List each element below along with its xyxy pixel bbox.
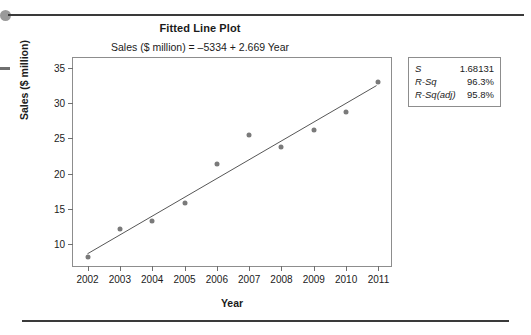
x-axis-tick-label: 2009 xyxy=(303,274,325,285)
bottom-horizontal-rule xyxy=(22,320,509,322)
stat-label-rsq: R-Sq xyxy=(415,75,437,88)
stat-value-rsq-adj: 95.8% xyxy=(467,88,494,101)
y-axis-tick xyxy=(68,68,73,69)
x-axis-tick-label: 2003 xyxy=(109,274,131,285)
x-axis-tick xyxy=(281,266,282,271)
x-axis-tick-label: 2007 xyxy=(238,274,260,285)
top-horizontal-rule xyxy=(8,14,524,16)
data-point xyxy=(311,127,316,132)
y-axis-tick xyxy=(68,174,73,175)
x-axis-tick xyxy=(249,266,250,271)
stat-row-rsq-adj: R-Sq(adj) 95.8% xyxy=(415,88,494,101)
data-point xyxy=(182,201,187,206)
data-point xyxy=(247,132,252,137)
y-axis-tick xyxy=(68,103,73,104)
data-point xyxy=(344,109,349,114)
margin-dash-icon xyxy=(0,67,10,70)
y-axis-tick-label: 20 xyxy=(54,168,65,179)
y-axis-tick xyxy=(68,244,73,245)
data-point xyxy=(85,255,90,260)
statistics-box: S 1.68131 R-Sq 96.3% R-Sq(adj) 95.8% xyxy=(408,57,501,107)
x-axis-tick xyxy=(346,266,347,271)
stat-row-rsq: R-Sq 96.3% xyxy=(415,75,494,88)
x-axis-title: Year xyxy=(72,297,392,309)
y-axis-tick xyxy=(68,209,73,210)
fitted-regression-line xyxy=(73,58,391,267)
data-point xyxy=(150,219,155,224)
x-axis-tick-label: 2002 xyxy=(76,274,98,285)
chart-subtitle-equation: Sales ($ million) = –5334 + 2.669 Year xyxy=(0,41,400,53)
stat-row-s: S 1.68131 xyxy=(415,62,494,75)
y-axis-tick-label: 35 xyxy=(54,62,65,73)
stat-value-s: 1.68131 xyxy=(460,62,494,75)
stat-label-s: S xyxy=(415,62,421,75)
y-axis-tick-label: 30 xyxy=(54,98,65,109)
y-axis-tick-label: 10 xyxy=(54,239,65,250)
figure-page: Fitted Line Plot Sales ($ million) = –53… xyxy=(0,0,531,335)
x-axis-tick xyxy=(120,266,121,271)
y-axis-tick-label: 25 xyxy=(54,133,65,144)
x-axis-tick-label: 2010 xyxy=(335,274,357,285)
x-axis-tick xyxy=(185,266,186,271)
x-axis-tick-label: 2006 xyxy=(206,274,228,285)
x-axis-tick xyxy=(217,266,218,271)
x-axis-tick-label: 2011 xyxy=(368,274,390,285)
plot-area: 1015202530352002200320042005200620072008… xyxy=(72,57,392,267)
chart-title: Fitted Line Plot xyxy=(0,22,400,34)
x-axis-tick-label: 2008 xyxy=(270,274,292,285)
data-point xyxy=(376,79,381,84)
x-axis-tick xyxy=(88,266,89,271)
stat-value-rsq: 96.3% xyxy=(467,75,494,88)
data-point xyxy=(117,226,122,231)
data-point xyxy=(279,145,284,150)
x-axis-tick xyxy=(152,266,153,271)
y-axis-tick xyxy=(68,138,73,139)
stat-label-rsq-adj: R-Sq(adj) xyxy=(415,88,456,101)
x-axis-tick-label: 2004 xyxy=(141,274,163,285)
plot-inner: 1015202530352002200320042005200620072008… xyxy=(73,58,391,266)
y-axis-tick-label: 15 xyxy=(54,203,65,214)
y-axis-title: Sales ($ million) xyxy=(18,40,30,120)
data-point xyxy=(214,162,219,167)
x-axis-tick-label: 2005 xyxy=(173,274,195,285)
x-axis-tick xyxy=(378,266,379,271)
x-axis-tick xyxy=(314,266,315,271)
